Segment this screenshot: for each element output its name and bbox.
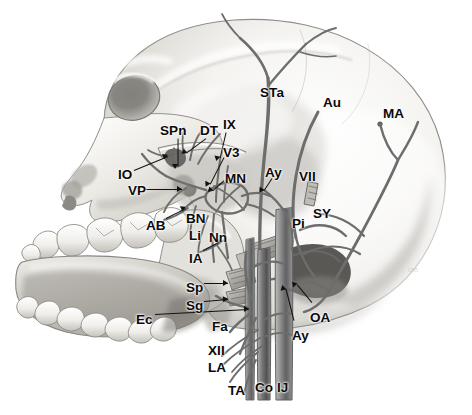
leader-arrow-spn: [172, 164, 178, 169]
label-sy: SY: [313, 207, 331, 221]
label-sg: Sg: [186, 299, 203, 313]
anatomical-figure: om: [0, 0, 472, 415]
label-oa: OA: [310, 311, 330, 325]
label-co: Co: [255, 381, 273, 395]
label-spn: SPn: [160, 124, 187, 138]
label-pi: Pi: [292, 217, 305, 231]
label-io: IO: [118, 168, 132, 182]
leader-line-spn: [177, 139, 178, 167]
label-ma: MA: [383, 107, 404, 121]
label-dt: DT: [200, 124, 218, 138]
leader-arrow-ec: [244, 306, 249, 312]
label-sta: STa: [260, 86, 284, 100]
label-ij: IJ: [277, 381, 288, 395]
label-ay1: Ay: [265, 166, 282, 180]
label-mn: MN: [225, 172, 246, 186]
label-li: Li: [189, 229, 201, 243]
label-au: Au: [323, 96, 341, 110]
label-vp: VP: [128, 184, 146, 198]
label-bn: BN: [186, 212, 206, 226]
label-sp: Sp: [186, 281, 203, 295]
label-fa: Fa: [212, 320, 228, 334]
label-ia: IA: [189, 252, 203, 266]
label-ta: TA: [228, 384, 245, 398]
label-xii: XII: [208, 344, 225, 358]
label-ix: IX: [223, 118, 236, 132]
label-nn: Nn: [209, 231, 227, 245]
leader-arrow-sg: [223, 296, 228, 302]
label-ay2: Ay: [292, 329, 309, 343]
label-vii: VII: [299, 170, 316, 184]
label-ab: AB: [146, 219, 166, 233]
label-la: LA: [208, 361, 226, 375]
label-v3: V3: [223, 146, 240, 160]
leader-arrow-ix: [213, 155, 220, 161]
leader-arrow-vp: [177, 186, 182, 192]
leader-arrow-sp: [223, 280, 228, 286]
skull-illustration: om: [0, 0, 472, 415]
label-ec: Ec: [136, 313, 153, 327]
